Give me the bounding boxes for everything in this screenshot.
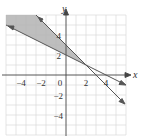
- x-axis-label: x: [132, 69, 138, 80]
- line-y-eq-neg-x-plus-3: [36, 15, 123, 102]
- inequality-graph: x y −4 −2 0 2 4 4 2 −2 −4: [0, 0, 143, 136]
- svg-text:0: 0: [58, 78, 63, 88]
- svg-text:−4: −4: [16, 78, 26, 88]
- svg-text:−2: −2: [53, 91, 63, 101]
- svg-text:2: 2: [84, 78, 89, 88]
- x-axis-arrow-icon: [125, 73, 131, 78]
- svg-text:4: 4: [104, 78, 109, 88]
- svg-text:−2: −2: [36, 78, 46, 88]
- svg-text:4: 4: [57, 31, 62, 41]
- svg-text:−4: −4: [53, 111, 63, 121]
- x-tick-labels: −4 −2 0 2 4: [16, 78, 109, 88]
- svg-text:2: 2: [57, 51, 62, 61]
- y-axis-label: y: [61, 3, 67, 14]
